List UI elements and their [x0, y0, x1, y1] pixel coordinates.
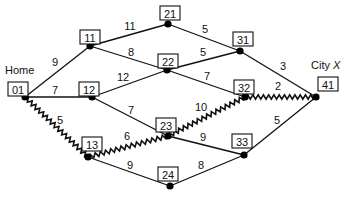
home-label: Home: [5, 64, 34, 76]
node-12: 12: [79, 82, 99, 101]
node-id-label: 13: [86, 139, 98, 151]
edge-weight-23-32: 10: [195, 101, 207, 113]
node-id-label: 01: [12, 84, 24, 96]
node-id-label: 32: [238, 82, 250, 94]
node-dot-icon: [84, 153, 91, 160]
node-id-label: 31: [237, 34, 249, 46]
node-dot-icon: [312, 93, 319, 100]
edge-weight-13-23: 6: [124, 130, 130, 142]
node-id-label: 21: [164, 8, 176, 20]
node-id-label: 33: [236, 136, 248, 148]
node-11: 11: [80, 30, 100, 50]
edge-33-41: [244, 97, 316, 155]
edge-weight-21-31: 5: [202, 23, 208, 35]
node-01: 01: [8, 82, 29, 101]
node-dot-icon: [164, 20, 171, 27]
edge-weight-01-11: 9: [52, 56, 58, 68]
edge-weight-22-31: 5: [200, 46, 206, 58]
node-dot-icon: [236, 47, 243, 54]
node-21: 21: [160, 6, 180, 28]
node-id-label: 24: [162, 169, 174, 181]
edge-weight-22-32: 7: [204, 70, 210, 82]
edge-weight-01-13: 5: [57, 114, 63, 126]
edge-weight-12-23: 7: [128, 104, 134, 116]
node-id-label: 11: [84, 32, 95, 44]
edge-weight-01-12: 7: [52, 84, 58, 96]
node-id-label: 41: [322, 79, 334, 91]
edge-weight-31-41: 3: [280, 60, 286, 72]
node-dot-icon: [166, 182, 173, 189]
edge-weight-32-41: 2: [275, 80, 281, 92]
node-id-label: 22: [162, 56, 174, 68]
city-label-var: X: [332, 59, 341, 71]
edge-weight-23-33: 9: [200, 131, 206, 143]
edges-layer: [25, 24, 316, 186]
network-diagram: 975118127695571098325 011112132122232431…: [0, 0, 350, 198]
edge-weight-11-22: 8: [128, 46, 134, 58]
node-24: 24: [158, 167, 178, 190]
city-x-label: City X: [311, 59, 341, 71]
node-dot-icon: [164, 132, 171, 139]
edge-24-33: [170, 155, 244, 186]
node-id-label: 12: [83, 84, 95, 96]
shortest-path-edge-32-41: [245, 95, 316, 99]
node-id-label: 23: [160, 120, 172, 132]
node-22: 22: [158, 54, 178, 74]
node-dot-icon: [240, 151, 247, 158]
edge-12-22: [92, 70, 167, 97]
shortest-path-edge-01-13: [25, 97, 88, 157]
edge-weight-33-41: 5: [274, 114, 280, 126]
node-23: 23: [156, 118, 176, 140]
node-31: 31: [233, 32, 253, 55]
city-label-text: City: [311, 59, 333, 71]
node-41: 41: [312, 77, 338, 101]
edge-weight-13-24: 9: [127, 159, 133, 171]
node-33: 33: [232, 134, 252, 159]
edge-weight-24-33: 8: [198, 159, 204, 171]
edge-weight-12-22: 12: [117, 71, 129, 83]
edge-weight-11-21: 11: [124, 20, 135, 32]
